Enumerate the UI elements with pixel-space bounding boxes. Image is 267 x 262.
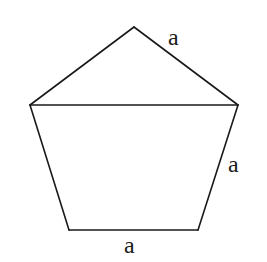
edge-apex-left	[30, 27, 134, 105]
pentagon-diagram: a a a	[0, 0, 267, 262]
label-bottom-side: a	[124, 232, 135, 258]
label-top-right-side: a	[168, 24, 179, 50]
diagram-svg: a a a	[0, 0, 267, 262]
label-right-side: a	[228, 151, 239, 177]
edge-left-bottom-left	[30, 105, 69, 230]
edge-apex-right	[134, 27, 238, 105]
